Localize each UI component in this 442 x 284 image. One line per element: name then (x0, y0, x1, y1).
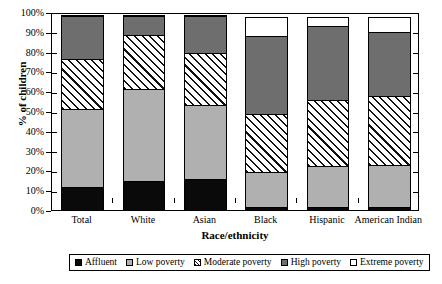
bar-group (245, 14, 288, 210)
legend-item[interactable]: Low poverty (126, 257, 185, 268)
legend-label: Moderate poverty (204, 257, 272, 268)
stacked-bar[interactable] (368, 14, 411, 210)
axis-inner-tick (52, 33, 57, 34)
legend-swatch-high-icon (281, 259, 288, 266)
bar-segment-moderate[interactable] (61, 59, 104, 110)
bar-segment-low[interactable] (245, 172, 288, 208)
legend-swatch-moderate-icon (194, 259, 201, 266)
legend-item[interactable]: Extreme poverty (350, 257, 424, 268)
bar-segment-low[interactable] (307, 166, 350, 208)
bar-segment-moderate[interactable] (184, 53, 227, 106)
y-axis-tick-label: 60% (26, 87, 44, 97)
y-axis-tick-label: 50% (26, 107, 44, 117)
bar-segment-high[interactable] (123, 16, 166, 36)
axis-inner-tick (413, 192, 418, 193)
bar-segment-high[interactable] (307, 26, 350, 101)
legend-label: Affluent (85, 257, 117, 268)
bar-segment-moderate[interactable] (307, 100, 350, 167)
bar-group (307, 14, 350, 210)
y-axis-tick-label: 30% (26, 147, 44, 157)
stacked-bar[interactable] (123, 14, 166, 210)
bar-segment-extreme[interactable] (245, 17, 288, 37)
legend-item[interactable]: Affluent (75, 257, 117, 268)
axis-inner-tick (413, 93, 418, 94)
axis-inner-tick (52, 132, 57, 133)
bar-group (61, 14, 104, 210)
axis-inner-tick (52, 192, 57, 193)
x-axis-tick-mark (174, 198, 175, 203)
y-axis-tick-label: 80% (26, 48, 44, 58)
bar-segment-low[interactable] (184, 105, 227, 180)
stacked-bar-chart: % of children 0%10%20%30%40%50%60%70%80%… (0, 0, 442, 284)
legend-item[interactable]: High poverty (281, 257, 341, 268)
bar-group (184, 14, 227, 210)
axis-inner-tick (413, 53, 418, 54)
axis-inner-tick (52, 53, 57, 54)
stacked-bar[interactable] (307, 14, 350, 210)
y-axis-tick-label: 100% (21, 8, 44, 18)
stacked-bar[interactable] (184, 14, 227, 210)
axis-inner-tick (413, 73, 418, 74)
legend-label: Extreme poverty (360, 257, 424, 268)
bar-segment-low[interactable] (368, 165, 411, 209)
bar-segment-high[interactable] (368, 32, 411, 97)
x-axis-tick-mark (112, 198, 113, 203)
axis-inner-tick (413, 152, 418, 153)
bar-segment-moderate[interactable] (245, 114, 288, 173)
axis-inner-tick (52, 113, 57, 114)
bar-group (368, 14, 411, 210)
y-axis-tick-labels: 0%10%20%30%40%50%60%70%80%90%100% (0, 0, 51, 212)
legend-label: Low poverty (136, 257, 185, 268)
chart-legend: AffluentLow povertyModerate povertyHigh … (69, 254, 430, 271)
axis-inner-tick (413, 172, 418, 173)
bar-segment-affluent[interactable] (61, 187, 104, 211)
bar-segment-affluent[interactable] (245, 207, 288, 211)
plot-area (51, 13, 419, 211)
axis-inner-tick (52, 152, 57, 153)
axis-inner-tick (413, 33, 418, 34)
x-axis-tick-mark (358, 198, 359, 203)
bar-segment-low[interactable] (61, 109, 104, 188)
bar-segment-high[interactable] (61, 16, 104, 60)
legend-item[interactable]: Moderate poverty (194, 257, 272, 268)
y-axis-tick-label: 0% (31, 206, 44, 216)
axis-inner-tick (52, 172, 57, 173)
stacked-bar[interactable] (61, 14, 104, 210)
legend-swatch-low-icon (126, 259, 133, 266)
x-axis-tick-mark (296, 198, 297, 203)
bar-segment-moderate[interactable] (368, 96, 411, 165)
y-axis-tick-label: 20% (26, 166, 44, 176)
axis-inner-tick (413, 132, 418, 133)
bar-segment-high[interactable] (245, 36, 288, 115)
bar-segment-affluent[interactable] (307, 207, 350, 211)
x-axis-tick-mark (235, 198, 236, 203)
y-axis-tick-mark (46, 211, 51, 212)
bar-segment-moderate[interactable] (123, 35, 166, 90)
axis-inner-tick (413, 113, 418, 114)
bar-segment-affluent[interactable] (184, 179, 227, 211)
x-axis-title: Race/ethnicity (51, 229, 419, 241)
stacked-bar[interactable] (245, 14, 288, 210)
bar-group-container (52, 14, 418, 210)
bar-segment-affluent[interactable] (368, 207, 411, 211)
bar-group (123, 14, 166, 210)
legend-swatch-extreme-icon (350, 259, 357, 266)
bar-segment-affluent[interactable] (123, 181, 166, 211)
y-axis-tick-label: 90% (26, 28, 44, 38)
axis-inner-tick (52, 93, 57, 94)
legend-label: High poverty (291, 257, 341, 268)
axis-inner-tick (52, 73, 57, 74)
bar-segment-high[interactable] (184, 16, 227, 54)
legend-swatch-affluent-icon (75, 259, 82, 266)
bar-segment-extreme[interactable] (368, 17, 411, 33)
x-axis-tick-label: American Indian (352, 214, 425, 226)
bar-segment-low[interactable] (123, 89, 166, 182)
y-axis-tick-label: 10% (26, 186, 44, 196)
y-axis-tick-label: 70% (26, 67, 44, 77)
y-axis-tick-label: 40% (26, 127, 44, 137)
x-axis-tick-labels: TotalWhiteAsianBlackHispanicAmerican Ind… (51, 214, 419, 230)
